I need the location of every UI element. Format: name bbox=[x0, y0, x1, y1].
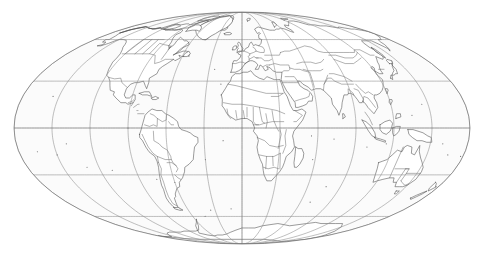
island-dot-16 bbox=[421, 104, 422, 105]
island-dot-12 bbox=[311, 135, 312, 136]
island-dot-26 bbox=[37, 151, 38, 152]
island-dot-9 bbox=[220, 84, 221, 85]
world-map-svg bbox=[0, 0, 484, 264]
island-dot-20 bbox=[210, 210, 211, 211]
island-dot-27 bbox=[86, 167, 87, 168]
island-dot-18 bbox=[386, 143, 387, 144]
island-dot-17 bbox=[411, 115, 412, 116]
island-dot-25 bbox=[366, 146, 367, 147]
island-dot-11 bbox=[333, 139, 334, 140]
island-dot-7 bbox=[223, 140, 224, 141]
island-dot-10 bbox=[312, 159, 313, 160]
island-dot-3 bbox=[112, 170, 113, 171]
island-dot-15 bbox=[442, 143, 443, 144]
island-dot-8 bbox=[214, 69, 215, 70]
island-dot-23 bbox=[231, 208, 232, 209]
island-dot-22 bbox=[310, 202, 311, 203]
island-dot-19 bbox=[156, 179, 157, 180]
island-dot-2 bbox=[66, 143, 67, 144]
island-dot-0 bbox=[52, 96, 53, 97]
world-map-container bbox=[0, 0, 484, 264]
island-dot-14 bbox=[460, 156, 461, 157]
island-dot-13 bbox=[447, 154, 448, 155]
island-dot-21 bbox=[326, 186, 327, 187]
